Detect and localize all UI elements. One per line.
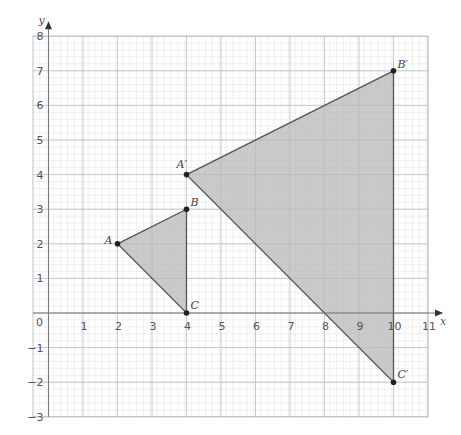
vertex-point [115,241,121,247]
vertex-point [184,172,190,178]
y-tick-label: 4 [37,169,44,182]
vertex-label: C [191,299,200,312]
x-tick-label: 8 [322,320,329,333]
y-tick-label: 3 [37,203,44,216]
x-tick-label: 7 [288,320,295,333]
vertex-point [184,206,190,212]
y-tick-label: −1 [27,342,43,355]
y-tick-label: 2 [37,238,44,251]
vertex-label: A [104,234,113,247]
y-tick-label: 1 [37,272,44,285]
vertex-label: B [190,196,199,209]
y-tick-label: −2 [27,376,43,389]
x-tick-label: 6 [253,320,260,333]
vertex-point [184,310,190,316]
x-tick-label: 11 [422,320,436,333]
coordinate-plane: xy0123456789101187654321−1−2−3ABCA′B′C′ [0,0,461,435]
y-axis-arrow-icon [45,21,52,29]
x-tick-label: 3 [150,320,157,333]
vertex-label: B′ [397,58,409,71]
vertex-point [391,379,397,385]
origin-label: 0 [36,316,43,329]
vertex-label: C′ [398,368,409,381]
x-axis-label: x [440,315,447,328]
y-tick-label: 7 [37,65,44,78]
y-axis-label: y [38,14,46,27]
y-tick-label: 8 [37,30,44,43]
x-tick-label: 1 [81,320,88,333]
x-tick-label: 5 [219,320,226,333]
y-tick-label: 5 [37,134,44,147]
x-tick-label: 2 [115,320,122,333]
x-tick-label: 9 [357,320,364,333]
x-tick-label: 4 [184,320,191,333]
x-tick-label: 10 [388,320,402,333]
vertex-label: A′ [176,158,188,171]
y-tick-label: 6 [37,99,44,112]
vertex-point [391,68,397,74]
y-tick-label: −3 [27,411,43,424]
